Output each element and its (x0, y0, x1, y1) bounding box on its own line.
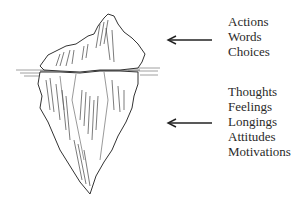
label-motivations: Motivations (228, 144, 291, 159)
arrow-left-icon (166, 35, 214, 45)
label-feelings: Feelings (228, 99, 291, 114)
below-water-labels: Thoughts Feelings Longings Attitudes Mot… (228, 84, 291, 159)
label-actions: Actions (228, 14, 270, 29)
iceberg-illustration-icon (0, 0, 160, 207)
label-choices: Choices (228, 44, 270, 59)
label-thoughts: Thoughts (228, 84, 291, 99)
label-words: Words (228, 29, 270, 44)
arrow-left-icon (166, 118, 214, 128)
label-longings: Longings (228, 114, 291, 129)
label-attitudes: Attitudes (228, 129, 291, 144)
above-water-labels: Actions Words Choices (228, 14, 270, 59)
